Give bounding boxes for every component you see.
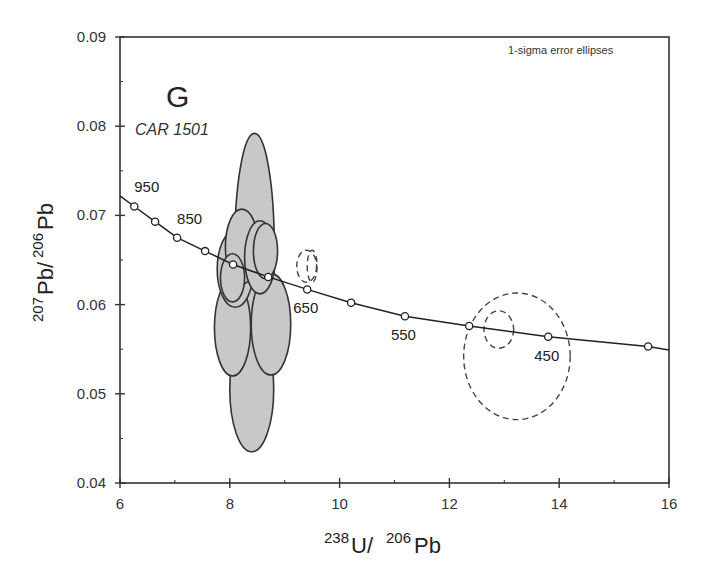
y-title-sup2: 206 xyxy=(29,233,46,258)
age-marker xyxy=(173,234,180,241)
y-tick-label: 0.05 xyxy=(77,385,106,402)
x-axis-title: 238 U/ 206 Pb xyxy=(324,529,441,558)
x-tick-label: 14 xyxy=(551,495,568,512)
y-title-sup1: 207 xyxy=(29,297,46,322)
age-marker xyxy=(645,343,652,350)
age-label-850: 850 xyxy=(177,210,202,227)
age-marker xyxy=(265,273,272,280)
age-marker xyxy=(131,203,138,210)
error-ellipse-note: 1-sigma error ellipses xyxy=(508,44,614,56)
y-tick-label: 0.08 xyxy=(77,117,106,134)
y-axis-title: 207 Pb/ 206 Pb xyxy=(29,203,58,322)
age-label-950: 950 xyxy=(134,178,159,195)
age-marker xyxy=(348,299,355,306)
y-tick-label: 0.04 xyxy=(77,474,106,491)
sample-label: CAR 1501 xyxy=(135,121,209,138)
x-title-sup2: 206 xyxy=(386,529,411,546)
chart-labels: G CAR 1501 1-sigma error ellipses xyxy=(135,44,614,138)
age-marker xyxy=(401,313,408,320)
error-ellipse-filled xyxy=(253,223,277,278)
filled-error-ellipses xyxy=(214,133,290,451)
age-marker xyxy=(152,218,159,225)
y-title-main1: Pb/ xyxy=(33,261,58,295)
x-title-sup1: 238 xyxy=(324,529,349,546)
age-marker xyxy=(201,247,208,254)
x-tick-label: 8 xyxy=(226,495,234,512)
x-title-main1: U/ xyxy=(351,533,374,558)
age-marker xyxy=(304,286,311,293)
y-tick-label: 0.07 xyxy=(77,206,106,223)
x-title-main2: Pb xyxy=(414,533,441,558)
dashed-error-ellipses xyxy=(297,250,570,419)
plot-frame xyxy=(120,37,669,483)
x-tick-label: 16 xyxy=(661,495,678,512)
x-tick-label: 10 xyxy=(331,495,348,512)
error-ellipse-dashed xyxy=(307,250,317,282)
panel-letter: G xyxy=(166,80,189,113)
y-title-main2: Pb xyxy=(33,203,58,230)
age-marker xyxy=(466,322,473,329)
age-label-550: 550 xyxy=(391,326,416,343)
age-label-650: 650 xyxy=(293,299,318,316)
age-marker xyxy=(229,261,236,268)
age-marker xyxy=(545,333,552,340)
age-label-450: 450 xyxy=(534,347,559,364)
y-tick-label: 0.09 xyxy=(77,28,106,45)
x-tick-label: 6 xyxy=(116,495,124,512)
concordia-chart: 950850650550450 68101214160.040.050.060.… xyxy=(0,0,706,579)
y-tick-label: 0.06 xyxy=(77,296,106,313)
concordia-curve: 950850650550450 xyxy=(120,178,669,363)
x-tick-label: 12 xyxy=(441,495,458,512)
